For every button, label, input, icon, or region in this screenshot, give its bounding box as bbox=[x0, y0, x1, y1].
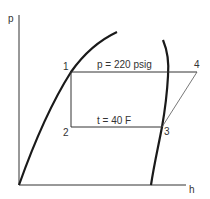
point-4-label: 4 bbox=[194, 59, 200, 70]
p-axis-label: p bbox=[8, 13, 14, 24]
saturated-vapor-curve bbox=[151, 40, 168, 185]
point-2-label: 2 bbox=[63, 127, 69, 138]
saturated-liquid-curve bbox=[19, 32, 117, 185]
h-axis-label: h bbox=[189, 184, 195, 195]
point-1-label: 1 bbox=[63, 61, 69, 72]
temperature-annotation: t = 40 F bbox=[97, 115, 131, 126]
point-3-label: 3 bbox=[164, 126, 170, 137]
pressure-annotation: p = 220 psig bbox=[97, 59, 152, 70]
pressure-enthalpy-diagram: p h 1 2 3 4 p = 220 psig t = 40 F bbox=[0, 0, 210, 199]
